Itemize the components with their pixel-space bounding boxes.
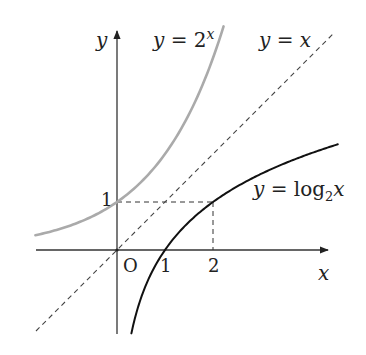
curve-logarithm	[131, 144, 337, 333]
curve-exponential	[35, 26, 223, 235]
y-axis-label: y	[95, 28, 108, 52]
label-logarithm: y = log2x	[252, 177, 345, 204]
x-tick-2-label: 2	[208, 255, 219, 276]
label-identity: y = x	[258, 28, 311, 52]
label-exponential: y = 2x	[152, 26, 215, 52]
origin-label: O	[123, 255, 138, 276]
function-graph-diagram: y x O 1 2 1 y = 2x y = x y = log2x	[0, 0, 366, 355]
x-tick-1-label: 1	[160, 255, 171, 276]
y-tick-1-label: 1	[101, 189, 112, 210]
x-axis-label: x	[318, 261, 329, 285]
